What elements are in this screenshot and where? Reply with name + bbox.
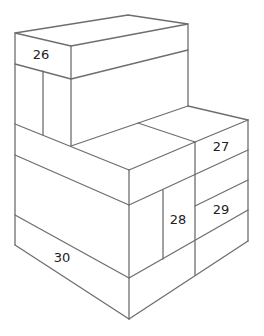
block-labels: 26 27 28 29 30 (33, 47, 230, 265)
label-27: 27 (213, 139, 230, 154)
block-stack-diagram: 26 27 28 29 30 (0, 0, 264, 336)
label-29: 29 (213, 202, 230, 217)
label-26: 26 (33, 47, 50, 62)
label-30: 30 (54, 250, 71, 265)
label-28: 28 (170, 212, 187, 227)
